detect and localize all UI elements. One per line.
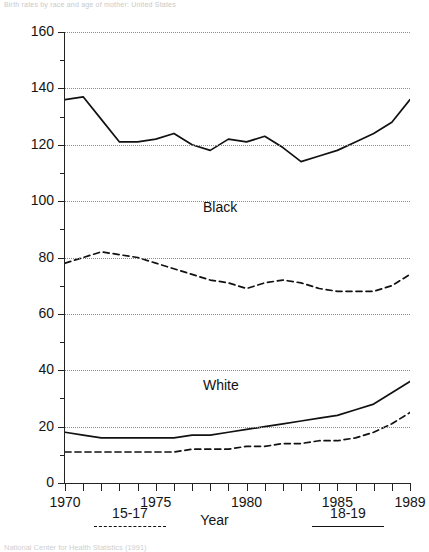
x-tick [319,483,320,491]
y-tick-label: 80 [20,250,54,264]
legend-item-18-19: 18-19 [312,505,384,527]
y-tick-major [58,258,65,259]
y-tick-label: 60 [20,306,54,320]
x-tick [247,483,248,491]
y-tick-label: 40 [20,362,54,376]
y-tick-label: 120 [20,137,54,151]
annotation-white: White [203,377,239,393]
gridline [65,32,410,33]
x-tick [156,483,157,491]
y-tick-label: 140 [20,80,54,94]
plot-area [65,32,410,483]
y-tick-major [58,88,65,89]
gridline [65,370,410,371]
series-line [65,97,410,162]
gridline [65,201,410,202]
y-tick-minor [60,455,65,456]
gridline [65,314,410,315]
y-tick-label: 160 [20,24,54,38]
y-tick-major [58,427,65,428]
y-tick-minor [60,60,65,61]
x-tick [265,483,266,491]
x-tick [392,483,393,491]
x-tick [192,483,193,491]
y-tick-minor [60,117,65,118]
annotation-black: Black [203,199,237,215]
x-tick [119,483,120,491]
x-tick [65,483,66,491]
y-tick-label: 100 [20,193,54,207]
x-tick [228,483,229,491]
y-tick-label: 0 [20,475,54,489]
legend: 15-17 18-19 [0,505,429,545]
x-tick [374,483,375,491]
y-tick-major [58,145,65,146]
y-tick-major [58,370,65,371]
legend-swatch-solid [312,526,384,527]
y-tick-label: 20 [20,419,54,433]
x-tick [174,483,175,491]
legend-label-18-19: 18-19 [312,505,384,521]
x-tick [356,483,357,491]
x-tick [283,483,284,491]
y-tick-minor [60,173,65,174]
y-tick-major [58,32,65,33]
x-tick [83,483,84,491]
x-tick [138,483,139,491]
gridline [65,88,410,89]
x-tick [301,483,302,491]
y-tick-minor [60,229,65,230]
y-tick-minor [60,398,65,399]
x-tick [101,483,102,491]
legend-label-15-17: 15-17 [94,505,166,521]
x-tick [210,483,211,491]
x-tick [410,483,411,491]
x-axis-line [64,483,411,484]
y-tick-major [58,314,65,315]
gridline [65,145,410,146]
gridline [65,258,410,259]
legend-item-15-17: 15-17 [94,505,166,527]
legend-swatch-dashed [94,526,166,527]
x-tick [337,483,338,491]
y-tick-minor [60,286,65,287]
y-axis-labels: 020406080100120140160 [12,0,54,552]
y-tick-major [58,201,65,202]
y-tick-minor [60,342,65,343]
bottom-caption: National Center for Health Statistics (1… [4,543,424,552]
gridline [65,427,410,428]
y-tick-major [58,483,65,484]
series-line [65,413,410,452]
